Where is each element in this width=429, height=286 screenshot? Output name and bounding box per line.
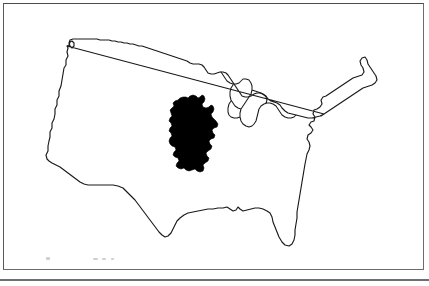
figure-root bbox=[0, 0, 429, 286]
germany-silhouette-path bbox=[169, 95, 218, 172]
map-canvas bbox=[4, 4, 425, 271]
scale-artifact-mark bbox=[46, 257, 50, 260]
scale-bar-artifacts bbox=[38, 253, 158, 267]
scale-artifact-mark bbox=[111, 258, 114, 260]
figure-frame bbox=[3, 3, 424, 270]
scan-bottom-edge bbox=[0, 279, 429, 281]
scale-artifact-mark bbox=[93, 258, 98, 260]
figure-caption-clipped bbox=[0, 276, 429, 286]
scale-artifact-mark bbox=[102, 258, 106, 260]
us-national-outline-path bbox=[46, 39, 377, 246]
great-lakes-outline-path bbox=[221, 72, 296, 127]
